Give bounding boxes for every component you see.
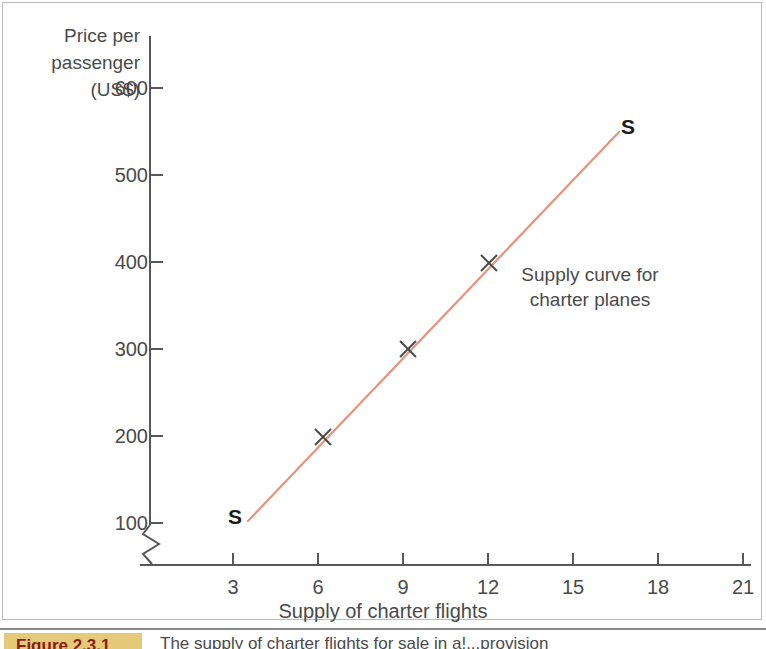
chart-plot-area	[0, 0, 766, 649]
figure-caption-text: The supply of charter flights for sale i…	[160, 634, 760, 649]
figure-caption-bar: Figure 2.3.1 The supply of charter fligh…	[0, 628, 766, 649]
supply-curve-label-top: S	[621, 115, 635, 139]
x-axis-title: Supply of charter flights	[0, 600, 766, 623]
figure-page: Price per passenger (US$) 600 500 400 30…	[0, 0, 766, 649]
figure-number-tag: Figure 2.3.1	[4, 633, 142, 649]
y-axis-break-zigzag	[143, 525, 159, 564]
supply-curve-line	[248, 132, 619, 521]
supply-curve-annotation: Supply curve for charter planes	[490, 262, 690, 312]
supply-curve-label-bottom: S	[228, 505, 242, 529]
